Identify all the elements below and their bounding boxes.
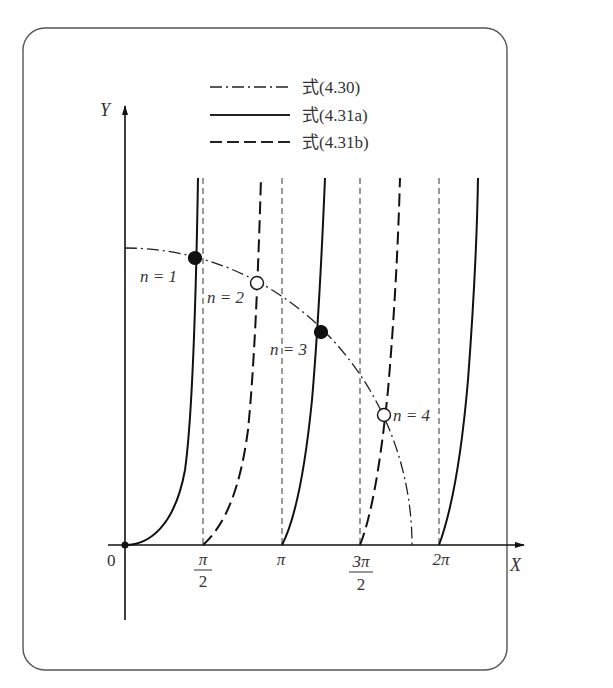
marker-n3-filled <box>315 326 328 339</box>
marker-n4-open <box>378 409 391 422</box>
tick-pi-over-2-den: 2 <box>199 572 208 591</box>
marker-n2-open <box>251 277 264 290</box>
intersection-markers <box>122 252 391 549</box>
figure-canvas: 式(4.30) 式(4.31a) 式(4.31b) n = 1 n = 2 <box>0 0 613 688</box>
asymptotes <box>203 178 439 545</box>
branch-4-31b-3pi-over-2 <box>360 178 400 545</box>
branch-4-31b-pi-over-2 <box>203 178 261 545</box>
legend: 式(4.30) 式(4.31a) 式(4.31b) <box>210 78 369 152</box>
branch-4-31a-pi <box>282 178 325 545</box>
curves-eq-4-31b <box>203 178 400 545</box>
label-n2: n = 2 <box>207 288 244 307</box>
tick-pi-over-2-num: π <box>199 550 208 569</box>
y-axis-label: Y <box>100 100 112 120</box>
origin-label: 0 <box>107 551 116 570</box>
origin-dot <box>122 542 129 549</box>
tick-3pi-over-2-num: 3π <box>351 552 370 571</box>
intersection-labels: n = 1 n = 2 n = 3 n = 4 <box>140 267 430 425</box>
label-n3: n = 3 <box>270 340 307 359</box>
legend-label-4-30: 式(4.30) <box>302 78 360 97</box>
figure-frame <box>23 28 507 670</box>
label-n1: n = 1 <box>140 267 177 286</box>
legend-label-4-31b: 式(4.31b) <box>302 133 369 152</box>
branch-4-31a-0 <box>125 178 198 545</box>
x-tick-labels: π 2 π 3π 2 2π <box>194 550 450 594</box>
tick-3pi-over-2-den: 2 <box>357 575 366 594</box>
label-n4: n = 4 <box>393 406 430 425</box>
branch-4-31a-2pi <box>439 178 478 545</box>
marker-n1-filled <box>189 252 202 265</box>
tick-pi: π <box>277 550 286 569</box>
legend-label-4-31a: 式(4.31a) <box>302 106 368 125</box>
x-axis-label: X <box>509 555 522 575</box>
curves-eq-4-31a <box>125 178 478 545</box>
tick-2pi: 2π <box>432 550 450 569</box>
curve-eq-4-30 <box>125 248 412 545</box>
